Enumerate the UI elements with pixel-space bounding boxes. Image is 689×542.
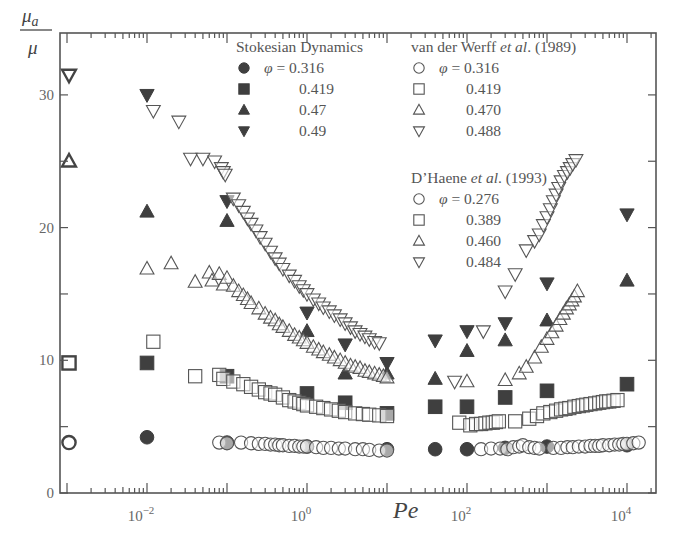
open-triangle-up-marker-icon: [164, 256, 178, 269]
legend-entry-label: 0.49: [299, 122, 326, 139]
y-tick-label: 10: [39, 352, 54, 368]
filled-triangle-down-marker-icon: [620, 209, 634, 222]
legend-entry-label: 0.470: [466, 101, 501, 118]
open-square-marker-icon: [62, 356, 75, 369]
open-triangle-up-marker-icon: [414, 104, 425, 114]
open-square-marker-icon: [414, 215, 424, 225]
filled-square-marker-icon: [428, 400, 442, 414]
open-triangle-down-marker-icon: [196, 153, 210, 166]
plot-frame: [60, 33, 656, 493]
filled-triangle-up-marker-icon: [620, 273, 634, 286]
open-square-marker-icon: [380, 409, 393, 422]
filled-triangle-up-marker-icon: [460, 344, 474, 357]
open-circle-marker-icon: [414, 63, 424, 73]
y-axis-label-denominator: μ: [27, 37, 38, 58]
open-square-marker-icon: [189, 370, 202, 383]
filled-square-marker-icon: [460, 400, 474, 414]
filled-triangle-up-marker-icon: [239, 104, 250, 114]
filled-square-marker-icon: [239, 84, 249, 94]
open-circle-marker-icon: [533, 442, 546, 455]
filled-triangle-down-marker-icon: [338, 339, 352, 352]
filled-circle-marker-icon: [239, 63, 249, 73]
filled-triangle-down-marker-icon: [380, 358, 394, 371]
open-square-marker-icon: [147, 335, 160, 348]
legend-entry-label: 0.47: [299, 101, 326, 118]
legend-entry-label: 0.460: [466, 232, 501, 249]
open-triangle-down-marker-icon: [498, 286, 512, 299]
open-triangle-up-marker-icon: [498, 373, 512, 386]
legend-group-2: van der Werff et al. (1989)φ = 0.3160.41…: [411, 38, 576, 139]
legend-group-title: van der Werff et al. (1989): [411, 38, 576, 56]
legend-entry-label: 0.389: [466, 211, 501, 228]
y-tick-label: 20: [39, 220, 54, 236]
open-triangle-down-marker-icon: [519, 245, 533, 258]
filled-circle-marker-icon: [460, 442, 474, 456]
open-triangle-up-marker-icon: [414, 235, 425, 245]
filled-triangle-up-marker-icon: [428, 371, 442, 384]
open-triangle-down-marker-icon: [414, 127, 425, 137]
legend-group-1: Stokesian Dynamicsφ = 0.3160.4190.470.49: [236, 38, 363, 139]
open-triangle-down-marker-icon: [508, 269, 522, 282]
y-axis-label-numerator: μa: [21, 5, 39, 29]
filled-triangle-down-marker-icon: [460, 326, 474, 339]
open-triangle-down-marker-icon: [476, 326, 490, 339]
filled-triangle-down-marker-icon: [239, 127, 250, 137]
open-square-marker-icon: [509, 415, 522, 428]
filled-circle-marker-icon: [428, 442, 442, 456]
open-circle-marker-icon: [380, 444, 393, 457]
filled-triangle-down-marker-icon: [498, 318, 512, 331]
y-tick-label: 0: [47, 485, 55, 501]
open-circle-marker-icon: [62, 436, 75, 449]
legend-entry-label: 0.488: [466, 122, 501, 139]
filled-square-marker-icon: [540, 384, 554, 398]
legend: Stokesian Dynamicsφ = 0.3160.4190.470.49…: [236, 38, 576, 270]
open-triangle-up-marker-icon: [188, 275, 202, 288]
legend-entry-label: φ = 0.316: [439, 59, 499, 76]
filled-triangle-down-marker-icon: [140, 89, 154, 102]
y-tick-label: 30: [39, 87, 54, 103]
filled-square-marker-icon: [620, 377, 634, 391]
filled-triangle-down-marker-icon: [300, 307, 314, 320]
open-triangle-down-marker-icon: [414, 258, 425, 268]
filled-triangle-up-marker-icon: [140, 204, 154, 217]
filled-triangle-down-marker-icon: [540, 278, 554, 291]
x-tick-label: 104: [611, 504, 632, 524]
open-triangle-up-marker-icon: [140, 261, 154, 274]
open-square-marker-icon: [492, 415, 505, 428]
legend-group-title: D’Haene et al. (1993): [411, 169, 547, 187]
legend-entry-label: 0.419: [466, 80, 501, 97]
legend-entry-label: 0.419: [299, 80, 334, 97]
legend-group-title: Stokesian Dynamics: [236, 38, 363, 55]
open-triangle-up-marker-icon: [62, 154, 76, 167]
open-triangle-down-marker-icon: [184, 153, 198, 166]
filled-circle-marker-icon: [140, 430, 154, 444]
open-circle-marker-icon: [414, 194, 424, 204]
shear-viscosity-chart: 010203010−2100102104 Stokesian Dynamicsφ…: [0, 0, 689, 542]
legend-entry-label: 0.484: [466, 253, 501, 270]
open-triangle-down-marker-icon: [172, 116, 186, 129]
filled-triangle-up-marker-icon: [220, 213, 234, 226]
filled-triangle-up-marker-icon: [540, 313, 554, 326]
zero-shear-points: [62, 70, 76, 449]
filled-triangle-down-marker-icon: [428, 335, 442, 348]
open-square-marker-icon: [611, 394, 624, 407]
y-axis-label: μa μ: [20, 5, 52, 58]
filled-square-marker-icon: [140, 356, 154, 370]
data-points: [62, 70, 645, 457]
legend-entry-label: φ = 0.316: [264, 59, 324, 76]
filled-triangle-up-marker-icon: [498, 333, 512, 346]
filled-square-marker-icon: [498, 391, 512, 405]
open-triangle-up-marker-icon: [570, 284, 584, 297]
x-axis-label: Pe: [392, 497, 419, 523]
series-open-triangle-down: [146, 106, 582, 389]
x-tick-label: 102: [451, 504, 472, 524]
open-circle-marker-icon: [632, 436, 645, 449]
open-triangle-down-marker-icon: [62, 70, 76, 83]
open-triangle-down-marker-icon: [218, 169, 232, 182]
open-circle-marker-icon: [220, 437, 233, 450]
legend-entry-label: φ = 0.276: [439, 190, 499, 207]
x-tick-label: 100: [291, 504, 312, 524]
x-tick-label: 10−2: [128, 504, 155, 524]
open-square-marker-icon: [414, 84, 424, 94]
open-triangle-down-marker-icon: [146, 106, 160, 119]
